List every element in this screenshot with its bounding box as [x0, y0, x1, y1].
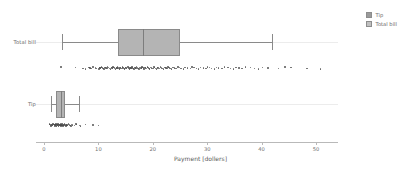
- x-tick-label-50: 50: [313, 146, 320, 152]
- data-point: [98, 125, 100, 127]
- legend-label: Total bill: [376, 21, 397, 27]
- legend-item-tip[interactable]: Tip: [366, 12, 397, 18]
- x-tick-label-10: 10: [95, 146, 102, 152]
- x-tick-label-20: 20: [149, 146, 156, 152]
- legend-item-total-bill[interactable]: Total bill: [366, 21, 397, 27]
- data-point: [85, 124, 87, 126]
- x-tick-label-40: 40: [258, 146, 265, 152]
- x-tick-label-30: 30: [204, 146, 211, 152]
- data-point: [74, 125, 76, 127]
- legend: TipTotal bill: [366, 12, 397, 29]
- legend-swatch-icon: [366, 12, 372, 18]
- x-tick-label-0: 0: [42, 146, 45, 152]
- data-point: [92, 124, 94, 126]
- strip-plot-tip: [0, 0, 401, 170]
- data-point: [72, 124, 74, 126]
- data-point: [76, 124, 78, 126]
- plot-axes: Total billTip01020304050: [0, 0, 401, 170]
- x-axis-title: Payment [dollers]: [0, 155, 401, 162]
- data-point: [67, 125, 69, 127]
- x-axis-line: [36, 142, 338, 143]
- data-point: [80, 125, 82, 127]
- legend-label: Tip: [376, 12, 384, 18]
- legend-swatch-icon: [366, 21, 372, 27]
- boxplot-figure: Total billTip01020304050 TipTotal bill P…: [0, 0, 401, 170]
